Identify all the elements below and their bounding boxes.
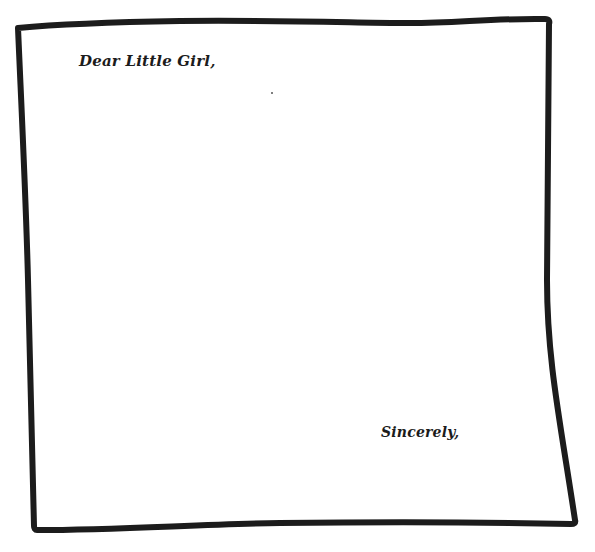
letter-greeting: Dear Little Girl, (79, 52, 216, 70)
hand-drawn-frame (18, 19, 575, 530)
letter-border (0, 0, 595, 552)
letter-closing: Sincerely, (381, 424, 459, 440)
ink-speck (271, 92, 273, 94)
